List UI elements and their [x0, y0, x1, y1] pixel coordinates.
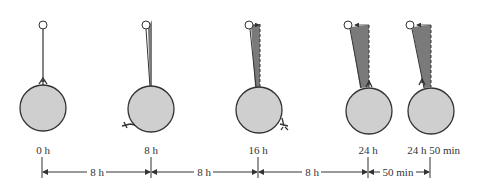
observer-icon [280, 118, 288, 130]
moon-icon [39, 21, 47, 29]
panel-24h-50min [406, 21, 454, 134]
interval-label-3: 50 min [383, 166, 414, 178]
moon-icon [344, 21, 352, 29]
moon-icon [245, 21, 253, 29]
panel-8h [122, 20, 174, 132]
interval-label-0: 8 h [90, 166, 104, 178]
time-label-1: 8 h [144, 144, 158, 156]
diagram: 0 h 8 h 16 h 24 h 24 h 50 min 8 h 8 h 8 … [0, 0, 479, 194]
earth-icon [346, 88, 392, 134]
earth-icon [236, 87, 282, 133]
earth-icon [408, 88, 454, 134]
panel-0h [20, 21, 66, 131]
time-label-2: 16 h [248, 144, 268, 156]
interval-label-2: 8 h [305, 166, 319, 178]
time-label-4: 24 h 50 min [407, 144, 460, 156]
panel-16h [236, 21, 288, 133]
time-label-3: 24 h [358, 144, 378, 156]
moon-icon [142, 21, 150, 29]
time-label-0: 0 h [36, 144, 50, 156]
earth-icon [20, 85, 66, 131]
panel-24h [344, 21, 392, 134]
moon-icon [406, 21, 414, 29]
interval-label-1: 8 h [197, 166, 211, 178]
